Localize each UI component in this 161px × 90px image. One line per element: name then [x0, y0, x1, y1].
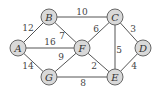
node-label: C	[111, 12, 119, 23]
weighted-graph: 1210167146359248 ABCDEFG	[0, 0, 161, 90]
node-B: B	[41, 9, 57, 25]
node-D: D	[135, 40, 151, 56]
weight-C-D: 3	[130, 24, 136, 34]
weight-B-C: 10	[76, 7, 88, 17]
weight-D-E: 4	[131, 61, 137, 71]
node-label: A	[13, 43, 21, 54]
node-label: B	[44, 12, 52, 23]
weight-C-F: 6	[93, 24, 99, 34]
node-label: E	[110, 72, 119, 83]
weight-A-G: 14	[22, 61, 34, 71]
node-A: A	[10, 40, 26, 56]
nodes: ABCDEFG	[10, 9, 151, 85]
weight-A-B: 12	[22, 23, 33, 33]
weight-G-E: 8	[80, 78, 86, 88]
node-label: F	[78, 43, 87, 54]
node-G: G	[41, 69, 57, 85]
weight-F-G: 9	[58, 52, 64, 62]
weight-B-F: 7	[59, 31, 65, 41]
node-label: D	[138, 43, 147, 54]
weight-F-E: 2	[91, 61, 97, 71]
weight-A-F: 16	[44, 37, 56, 47]
node-label: G	[45, 72, 53, 83]
node-F: F	[74, 40, 90, 56]
weight-C-E: 5	[116, 45, 122, 55]
node-C: C	[107, 9, 123, 25]
node-E: E	[107, 69, 123, 85]
